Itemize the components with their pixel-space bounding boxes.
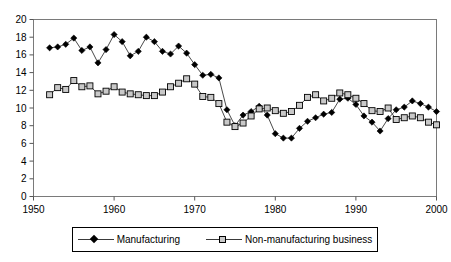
data-point-square-icon (288, 109, 294, 115)
data-point-square-icon (401, 115, 407, 121)
data-point-diamond-icon (417, 100, 423, 106)
x-tick-label: 1980 (264, 204, 287, 215)
data-point-square-icon (71, 78, 77, 84)
y-tick-label: 8 (21, 120, 27, 131)
data-point-diamond-icon (329, 109, 335, 115)
x-tick-label: 1990 (345, 204, 368, 215)
data-point-square-icon (337, 90, 343, 96)
data-point-square-icon (111, 84, 117, 90)
data-point-square-icon (313, 92, 319, 98)
data-point-square-icon (361, 101, 367, 107)
data-point-square-icon (176, 80, 182, 86)
data-point-square-icon (409, 113, 415, 119)
data-point-diamond-icon (272, 131, 278, 137)
data-point-diamond-icon (216, 75, 222, 81)
data-point-square-icon (240, 120, 246, 126)
data-point-square-icon (95, 91, 101, 97)
data-point-square-icon (63, 86, 69, 92)
data-point-square-icon (216, 101, 222, 107)
y-tick-label: 2 (21, 173, 27, 184)
y-tick-label: 10 (15, 103, 27, 114)
data-point-square-icon (168, 84, 174, 90)
data-point-diamond-icon (95, 60, 101, 66)
y-tick-label: 4 (21, 156, 27, 167)
data-point-square-icon (224, 119, 230, 125)
data-point-square-icon (208, 94, 214, 100)
y-tick-label: 20 (15, 14, 27, 25)
data-series-layer (47, 31, 440, 141)
x-axis-tick-labels: 195019601970198019902000 (22, 204, 448, 215)
data-point-diamond-icon (313, 115, 319, 121)
data-point-diamond-icon (337, 96, 343, 102)
data-point-diamond-icon (321, 111, 327, 117)
data-point-square-icon (417, 115, 423, 121)
x-tick-label: 1960 (103, 204, 126, 215)
y-tick-label: 18 (15, 32, 27, 43)
data-point-diamond-icon (224, 107, 230, 113)
data-point-square-icon (305, 94, 311, 100)
data-point-square-icon (385, 105, 391, 111)
legend-item-manufacturing: Manufacturing (78, 234, 180, 245)
data-point-diamond-icon (143, 34, 149, 40)
chart-legend: Manufacturing Non-manufacturing business (72, 227, 378, 252)
y-tick-label: 14 (15, 67, 27, 78)
data-point-square-icon (296, 102, 302, 108)
data-point-square-icon (434, 122, 440, 128)
data-point-square-icon (248, 113, 254, 119)
data-point-square-icon (135, 92, 141, 98)
y-tick-label: 16 (15, 49, 27, 60)
data-point-square-icon (280, 110, 286, 116)
data-point-square-icon (232, 124, 238, 130)
y-tick-label: 6 (21, 138, 27, 149)
data-point-square-icon (127, 91, 133, 97)
data-point-square-icon (55, 85, 61, 91)
series-non-manufacturing-business (47, 76, 440, 130)
data-point-square-icon (103, 88, 109, 94)
data-point-square-icon (369, 108, 375, 114)
legend-label-manufacturing: Manufacturing (117, 235, 180, 245)
data-point-diamond-icon (425, 104, 431, 110)
data-point-square-icon (377, 109, 383, 115)
data-point-square-icon (256, 106, 262, 112)
data-point-square-icon (264, 105, 270, 111)
data-point-square-icon (345, 92, 351, 98)
y-tick-label: 0 (21, 191, 27, 202)
legend-label-non-manufacturing-business: Non-manufacturing business (245, 235, 372, 245)
y-axis-tick-labels: 02468101214161820 (15, 14, 27, 202)
line-chart-plot: 02468101214161820 1950196019701980199020… (0, 0, 451, 220)
data-point-square-icon (272, 108, 278, 114)
data-point-square-icon (192, 81, 198, 87)
x-tick-label: 1950 (22, 204, 45, 215)
data-point-diamond-icon (127, 53, 133, 59)
data-point-diamond-icon (208, 71, 214, 77)
data-point-square-icon (425, 119, 431, 125)
data-point-square-icon (119, 89, 125, 95)
data-point-diamond-icon (135, 48, 141, 54)
data-point-diamond-icon (433, 108, 439, 114)
data-point-square-icon (47, 92, 53, 98)
data-point-square-icon (200, 93, 206, 99)
x-tick-label: 1970 (184, 204, 207, 215)
data-point-square-icon (353, 95, 359, 101)
data-point-diamond-icon (79, 47, 85, 53)
data-point-diamond-icon (103, 46, 109, 52)
x-axis-ticks (34, 197, 437, 201)
legend-marker-filled-diamond-icon (78, 234, 114, 245)
data-point-square-icon (159, 89, 165, 95)
data-point-diamond-icon (87, 44, 93, 50)
data-point-square-icon (87, 83, 93, 89)
data-point-diamond-icon (280, 135, 286, 141)
x-tick-label: 2000 (425, 204, 448, 215)
plot-frame (34, 20, 437, 197)
legend-marker-open-square-icon (206, 234, 242, 245)
data-point-square-icon (79, 84, 85, 90)
chart-container: 02468101214161820 1950196019701980199020… (0, 0, 451, 262)
data-point-square-icon (184, 76, 190, 82)
data-point-square-icon (151, 93, 157, 99)
data-point-diamond-icon (55, 44, 61, 50)
y-axis-ticks (30, 20, 34, 197)
y-tick-label: 12 (15, 85, 27, 96)
legend-item-non-manufacturing-business: Non-manufacturing business (206, 234, 372, 245)
data-point-square-icon (329, 95, 335, 101)
data-point-diamond-icon (47, 45, 53, 51)
